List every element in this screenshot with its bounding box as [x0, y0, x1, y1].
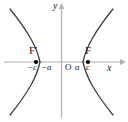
tick-label-c: c: [86, 63, 90, 72]
tick-label-neg-c: −c: [27, 63, 37, 72]
y-axis-label: y: [53, 1, 57, 11]
x-axis-label: x: [107, 63, 111, 73]
figure-canvas: [0, 0, 128, 122]
axes-group: [4, 3, 126, 118]
origin-label: O: [65, 63, 72, 72]
hyperbola-figure: y x O −c −a a c F′ F: [0, 0, 128, 122]
tick-label-neg-a: −a: [41, 63, 52, 72]
y-axis-arrow-icon: [59, 3, 65, 9]
left-focus-label: F′: [29, 45, 38, 56]
x-axis-arrow-icon: [120, 59, 126, 65]
tick-label-a: a: [75, 63, 80, 72]
right-focus-label: F: [85, 45, 91, 56]
